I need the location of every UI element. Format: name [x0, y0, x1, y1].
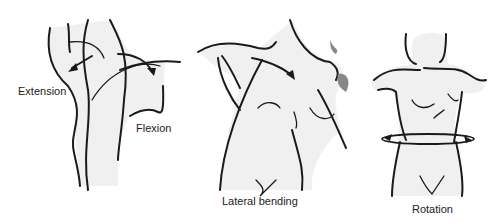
rotation-figure [372, 33, 486, 196]
flexion-label: Flexion [136, 122, 171, 134]
flexion-extension-figure [49, 20, 180, 190]
rotation-label: Rotation [412, 203, 453, 215]
lateral-bending-label: Lateral bending [222, 195, 298, 207]
lateral-bending-figure [198, 20, 348, 196]
trunk-motion-illustration [0, 0, 502, 222]
extension-label: Extension [18, 85, 66, 97]
